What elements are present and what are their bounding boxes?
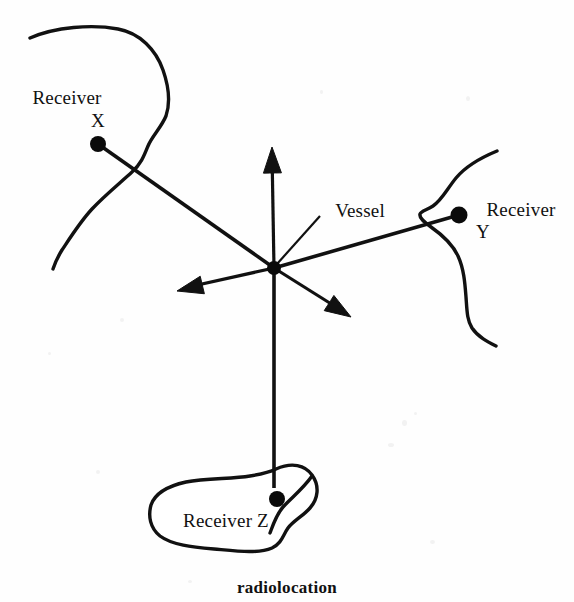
receiver-z-island — [150, 465, 317, 551]
receiver-x-label-line1: Receiver — [32, 87, 102, 108]
receiver-y-label-line2: Y — [476, 221, 490, 242]
figure-root: Receiver X Receiver Y Receiver Z Vessel … — [0, 0, 574, 602]
north-arrow-head — [263, 147, 281, 173]
southeast-arrow — [274, 268, 351, 317]
bearing-line-vessel-to-receiver-y — [274, 215, 459, 268]
southwest-arrow-head — [177, 276, 204, 294]
receiver-x-dot — [90, 136, 106, 152]
vessel-node — [267, 261, 281, 275]
southwest-arrow — [177, 268, 274, 294]
radiolocation-diagram: Receiver X Receiver Y Receiver Z Vessel — [0, 0, 574, 602]
receiver-y-dot — [451, 207, 468, 224]
receiver-x-label-line2: X — [91, 110, 105, 131]
vessel-label: Vessel — [335, 200, 385, 221]
receiver-z-dot — [269, 491, 285, 507]
figure-caption: radiolocation — [0, 578, 574, 598]
receiver-z-label: Receiver Z — [183, 510, 269, 531]
north-arrow — [263, 147, 281, 268]
bearing-line-vessel-to-receiver-x — [98, 144, 274, 268]
right-coastline — [420, 151, 497, 346]
receiver-y-label-line1: Receiver — [486, 199, 556, 220]
southeast-arrow-head — [324, 295, 351, 317]
